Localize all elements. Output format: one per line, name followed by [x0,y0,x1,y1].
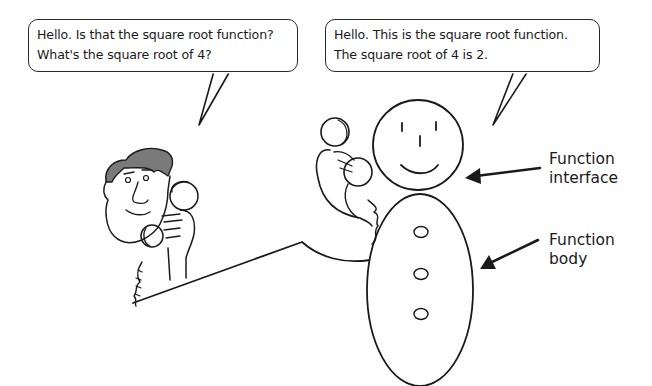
function-line-1: Hello. This is the square root function. [334,25,591,45]
caller-hair [106,148,173,182]
caller-line-2: What's the square root of 4? [37,45,289,65]
interface-label-line-2: interface [549,169,618,188]
interface-label-line-1: Function [549,150,618,169]
function-speech-bubble: Hello. This is the square root function.… [325,19,600,72]
body-label-line-1: Function [549,231,615,250]
caller-speech-bubble: Hello. Is that the square root function?… [28,19,298,72]
body-label-line-2: body [549,250,615,269]
interface-arrow-icon [465,168,540,184]
function-bubble-tail [493,71,529,125]
function-interface-head [373,100,463,190]
function-body-shape [367,194,473,386]
body-arrow-icon [480,240,538,269]
caller-bubble-tail [199,71,231,125]
function-body-label: Function body [549,231,615,269]
function-interface-label: Function interface [549,150,618,188]
caller-man-figure [104,148,198,306]
function-line-2: The square root of 4 is 2. [334,45,591,65]
function-figure [317,100,474,386]
caller-line-1: Hello. Is that the square root function? [37,25,289,45]
